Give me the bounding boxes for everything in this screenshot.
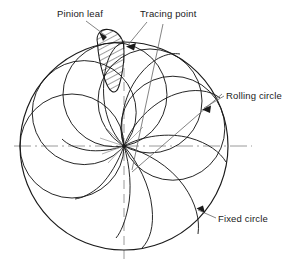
node-point-marker [122, 144, 126, 148]
fixed-circle-arrowhead [197, 206, 206, 214]
rolling-circle-leader-line [204, 96, 224, 108]
trace-curves-group [62, 42, 226, 248]
technical-diagram-canvas: Pinion leaf Tracing point Rolling circle… [0, 0, 296, 277]
trace-curve-5 [124, 146, 198, 234]
pinion-leaf-leader-line [86, 21, 106, 36]
tracing-point-leader-line-secondary [132, 24, 163, 170]
pinion-leaf-section [90, 24, 132, 98]
pinion-leaf-label: Pinion leaf [57, 8, 103, 19]
pinion-leaf-generation-figure: Pinion leaf Tracing point Rolling circle… [0, 0, 296, 277]
tracing-point-label: Tracing point [140, 8, 197, 19]
fixed-circle-label: Fixed circle [218, 213, 268, 224]
trace-curve-4 [124, 135, 226, 162]
rolling-circle-5 [121, 76, 225, 180]
tracing-point-leader-line [128, 22, 147, 45]
pinion-leaf-hatching [90, 24, 132, 98]
rolling-circle-label: Rolling circle [226, 90, 282, 101]
trace-curve-6 [124, 146, 153, 248]
